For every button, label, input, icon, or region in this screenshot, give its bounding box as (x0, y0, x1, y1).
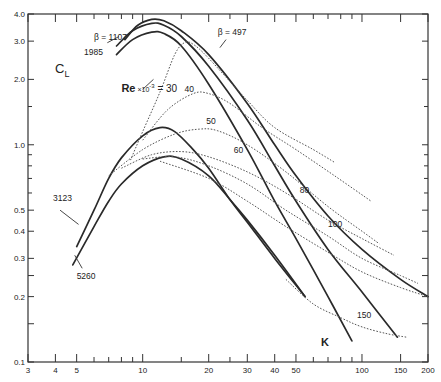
curve--3123 (77, 127, 305, 296)
curve--497 (125, 19, 428, 297)
y-tick-label: 4.0 (14, 10, 26, 19)
x-tick-label: 50 (292, 366, 301, 375)
y-axis-title-subscript: L (64, 69, 69, 79)
label-leader-line (220, 40, 226, 48)
annotation-label: 5260 (77, 271, 96, 281)
annotation-label: 60 (234, 145, 244, 155)
y-tick-label: 0.2 (14, 293, 26, 302)
curve-re-10-40 (143, 92, 371, 201)
cl-vs-k-chart: 34510203040501001502000.10.20.30.40.51.0… (0, 0, 441, 382)
annotation-label: β = 1107 (94, 32, 127, 42)
x-tick-label: 30 (243, 366, 252, 375)
annotation-label: 3123 (53, 193, 72, 203)
y-tick-label: 3.0 (14, 37, 26, 46)
curve--5260 (73, 156, 305, 296)
y-tick-label: 0.4 (14, 227, 26, 236)
y-tick-label: 0.5 (14, 206, 26, 215)
annotation-label: β = 497 (218, 27, 247, 37)
annotation-label: K (321, 336, 329, 348)
x-tick-label: 100 (355, 366, 369, 375)
label-leader-line (75, 255, 82, 268)
curve-labels: β = 11071985β = 497Re ×10-3 = 3040506080… (53, 27, 372, 348)
y-tick-label: 1.0 (14, 141, 26, 150)
annotation-label: 100 (328, 219, 342, 229)
curve-re-10-150 (286, 279, 407, 337)
annotation-label: 150 (357, 310, 371, 320)
curve-re-10-30 (131, 42, 335, 163)
annotation-label: 80 (300, 185, 310, 195)
x-tick-label: 10 (138, 366, 147, 375)
y-tick-label: 0.1 (14, 358, 26, 367)
annotation-label: 40 (184, 84, 194, 94)
x-tick-label: 20 (204, 366, 213, 375)
annotation-label: Re ×10-3 = 30 (121, 82, 177, 94)
label-leader-line (60, 210, 78, 224)
curve-re-10-100 (160, 161, 428, 296)
x-tick-label: 150 (394, 366, 408, 375)
y-axis-title: CL (55, 61, 69, 79)
y-tick-label: 0.3 (14, 254, 26, 263)
y-tick-label: 2.0 (14, 75, 26, 84)
curve--1985 (117, 32, 352, 341)
annotation-label: 1985 (84, 47, 103, 57)
curve--1107 (117, 23, 398, 337)
data-curves (73, 19, 428, 341)
x-tick-label: 5 (74, 366, 79, 375)
annotation-label: 50 (206, 116, 216, 126)
x-tick-label: 40 (270, 366, 279, 375)
x-tick-label: 200 (421, 366, 435, 375)
x-tick-label: 4 (53, 366, 58, 375)
x-tick-label: 3 (26, 366, 31, 375)
